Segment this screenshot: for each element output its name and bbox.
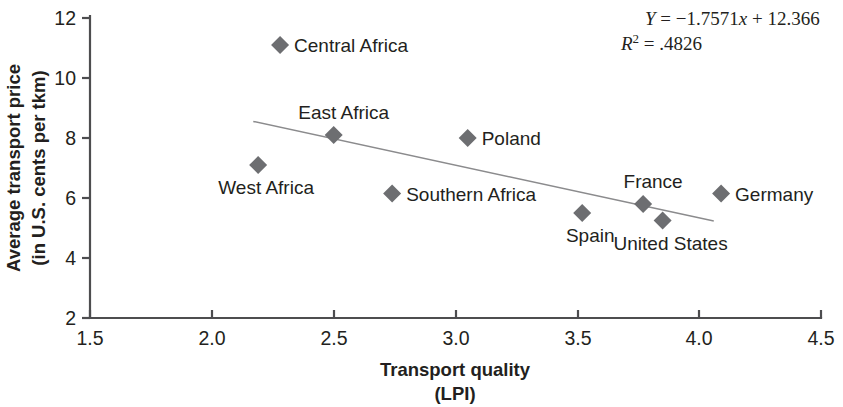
data-point[interactable]: United States: [614, 212, 728, 254]
y-tick-label: 8: [65, 127, 76, 149]
data-point[interactable]: France: [624, 171, 683, 213]
data-point-label: Central Africa: [294, 35, 408, 56]
equation-line: Y = −1.7571x + 12.366: [645, 8, 820, 29]
y-axis-ticks: [82, 18, 90, 318]
x-tick-label: 2.5: [320, 327, 347, 349]
data-point-label: Spain: [566, 225, 615, 246]
data-point[interactable]: Germany: [712, 184, 814, 205]
data-point-label: East Africa: [298, 102, 389, 123]
y-tick-label: 4: [65, 247, 76, 269]
diamond-marker[interactable]: [249, 156, 267, 174]
data-point-label: Germany: [735, 184, 814, 205]
scatter-plot: 12 10 8 6 4 2 1.5 2.0 2.5 3.0 3.5 4.0 4.…: [0, 0, 843, 407]
x-tick-label: 4.5: [807, 327, 834, 349]
data-point[interactable]: Poland: [459, 128, 541, 149]
diamond-marker[interactable]: [712, 185, 730, 203]
data-point[interactable]: Spain: [566, 204, 615, 246]
x-tick-label: 3.5: [564, 327, 591, 349]
data-point[interactable]: East Africa: [298, 102, 389, 144]
diamond-marker[interactable]: [634, 195, 652, 213]
y-tick-label: 6: [65, 187, 76, 209]
equation-tail: + 12.366: [747, 8, 819, 29]
diamond-marker[interactable]: [654, 212, 672, 230]
diamond-marker[interactable]: [383, 185, 401, 203]
data-point[interactable]: Central Africa: [271, 35, 408, 56]
y-axis-tick-labels: 12 10 8 6 4 2: [54, 7, 76, 329]
x-axis-ticks: [90, 310, 821, 318]
data-point-label: France: [624, 171, 683, 192]
x-axis-tick-labels: 1.5 2.0 2.5 3.0 3.5 4.0 4.5: [76, 327, 834, 349]
x-tick-label: 2.0: [198, 327, 225, 349]
r-squared-line: R2 = .4826: [620, 31, 702, 54]
y-axis-title-line1: Average transport price: [3, 64, 24, 272]
diamond-marker[interactable]: [325, 126, 343, 144]
diamond-marker[interactable]: [459, 129, 477, 147]
diamond-marker[interactable]: [573, 204, 591, 222]
y-tick-label: 12: [54, 7, 76, 29]
y-tick-label: 10: [54, 67, 76, 89]
chart-container: 12 10 8 6 4 2 1.5 2.0 2.5 3.0 3.5 4.0 4.…: [0, 0, 843, 407]
regression-annotation: Y = −1.7571x + 12.366 R2 = .4826: [620, 8, 820, 54]
data-points-layer: Central AfricaEast AfricaWest AfricaSout…: [218, 35, 813, 254]
x-tick-label: 3.0: [442, 327, 469, 349]
data-point[interactable]: West Africa: [218, 156, 314, 198]
equation-body: = −1.7571: [656, 8, 739, 29]
x-tick-label: 4.0: [685, 327, 712, 349]
r-symbol: R: [620, 33, 633, 54]
x-tick-label: 1.5: [76, 327, 103, 349]
data-point-label: West Africa: [218, 177, 314, 198]
diamond-marker[interactable]: [271, 36, 289, 54]
x-axis-title: Transport quality: [380, 359, 531, 380]
y-axis-title-line2: (in U.S. cents per tkm): [28, 70, 49, 265]
data-point-label: Poland: [482, 128, 541, 149]
y-tick-label: 2: [65, 307, 76, 329]
data-point-label: Southern Africa: [406, 184, 536, 205]
data-point[interactable]: Southern Africa: [383, 184, 536, 205]
r-value: = .4826: [639, 33, 702, 54]
x-axis-subtitle: (LPI): [434, 383, 475, 404]
data-point-label: United States: [614, 233, 728, 254]
